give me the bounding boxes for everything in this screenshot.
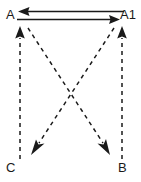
edge-a1-to-a [18, 7, 124, 16]
edge-a-to-b [28, 28, 110, 155]
diagram-graphics [0, 0, 141, 182]
edge-a-to-b-arrowhead [98, 139, 111, 155]
edge-a1-to-c-arrowhead [31, 140, 45, 156]
edge-a1-to-a-arrowhead [18, 7, 30, 16]
node-label-c: C [6, 161, 15, 174]
node-label-b: B [118, 161, 127, 174]
edge-c-to-a [15, 26, 25, 159]
edge-a1-to-c-line [39, 28, 114, 143]
diagram-canvas: A A1 C B [0, 0, 141, 182]
edge-a-to-a1 [17, 15, 120, 24]
edge-b-to-a1 [117, 26, 127, 159]
edge-a1-to-c [31, 28, 114, 155]
edge-a-to-b-line [28, 28, 103, 143]
node-label-a: A [6, 8, 15, 21]
edge-a-to-a1-arrowhead [109, 15, 120, 24]
node-label-a1: A1 [120, 8, 136, 21]
edge-c-to-a-arrowhead [15, 26, 25, 39]
edge-b-to-a1-arrowhead [117, 26, 127, 39]
